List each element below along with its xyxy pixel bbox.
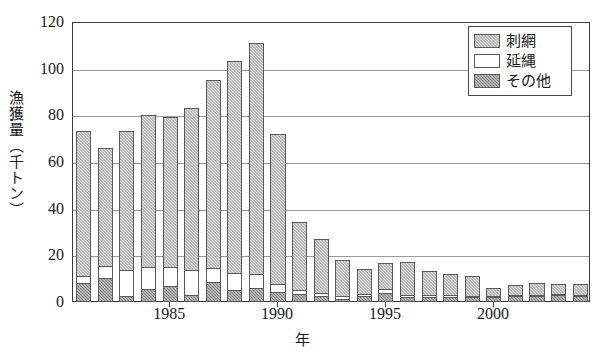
bar-1991: [292, 219, 307, 301]
bar-segment-other: [573, 296, 588, 302]
legend-swatch-longline: [474, 54, 500, 68]
bar-1993: [335, 257, 350, 301]
legend-label: 延縄: [506, 54, 536, 69]
legend-label: その他: [506, 74, 551, 89]
bar-1994: [357, 266, 372, 301]
bar-segment-gillnet: [378, 263, 393, 290]
bar-segment-other: [98, 278, 113, 303]
bar-segment-other: [249, 288, 264, 302]
bar-segment-gillnet: [98, 148, 113, 267]
y-axis-tick-labels: 020406080100120: [0, 0, 72, 302]
bar-segment-gillnet: [422, 271, 437, 296]
bar-segment-gillnet: [465, 276, 480, 297]
chart-legend: 刺網延縄その他: [468, 26, 572, 96]
x-axis-tick-mark: [169, 302, 170, 307]
bar-1981: [76, 128, 91, 301]
y-axis-tick-label: 60: [6, 154, 64, 170]
bar-segment-other: [119, 296, 134, 302]
legend-item-other: その他: [474, 71, 566, 91]
bar-segment-gillnet: [119, 131, 134, 271]
bar-2002: [529, 280, 544, 301]
bar-1984: [141, 112, 156, 301]
bar-1997: [422, 268, 437, 301]
bar-segment-other: [292, 294, 307, 302]
x-axis-tick-mark: [493, 302, 494, 307]
bar-segment-gillnet: [249, 43, 264, 275]
bar-segment-gillnet: [76, 131, 91, 277]
y-axis-tick-label: 120: [6, 14, 64, 30]
bar-segment-other: [163, 286, 178, 302]
bar-1999: [465, 273, 480, 301]
bar-segment-other: [443, 297, 458, 302]
bar-segment-other: [508, 296, 523, 302]
x-axis-title: 年: [0, 328, 605, 349]
legend-item-gillnet: 刺網: [474, 31, 566, 51]
bar-segment-other: [422, 297, 437, 302]
bar-segment-gillnet: [314, 239, 329, 294]
x-axis-tick-mark: [385, 302, 386, 307]
bar-segment-other: [357, 296, 372, 302]
x-axis-tick-label: 1990: [261, 306, 293, 322]
y-axis-tick-label: 0: [6, 294, 64, 310]
bar-segment-other: [314, 296, 329, 302]
bar-segment-gillnet: [443, 274, 458, 296]
legend-label: 刺網: [506, 34, 536, 49]
bar-1990: [270, 131, 285, 301]
bar-segment-other: [184, 295, 199, 302]
fishery-catch-stacked-bar-chart: 漁獲量（千トン） 020406080100120 198519901995200…: [0, 0, 605, 361]
y-axis-tick-label: 80: [6, 107, 64, 123]
bar-2001: [508, 282, 523, 301]
bar-1986: [184, 105, 199, 301]
x-axis-tick-mark: [277, 302, 278, 307]
bar-segment-gillnet: [270, 134, 285, 286]
bar-1998: [443, 271, 458, 301]
bar-1983: [119, 128, 134, 301]
legend-swatch-other: [474, 74, 500, 88]
bar-segment-other: [335, 299, 350, 303]
x-axis-tick-label: 2000: [477, 306, 509, 322]
bar-segment-other: [270, 292, 285, 303]
bar-segment-other: [400, 297, 415, 302]
bar-segment-longline: [184, 270, 199, 296]
bar-2000: [486, 286, 501, 301]
bar-1996: [400, 259, 415, 301]
bar-segment-other: [465, 297, 480, 302]
bar-segment-longline: [119, 270, 134, 297]
bar-segment-longline: [249, 274, 264, 289]
bar-segment-other: [141, 289, 156, 302]
bar-1982: [98, 145, 113, 301]
bar-segment-gillnet: [292, 222, 307, 291]
bar-1995: [378, 260, 393, 301]
legend-item-longline: 延縄: [474, 51, 566, 71]
y-axis-tick-label: 100: [6, 61, 64, 77]
bar-segment-gillnet: [141, 115, 156, 268]
bar-segment-other: [529, 296, 544, 302]
bar-segment-gillnet: [206, 80, 221, 269]
bar-1985: [163, 114, 178, 301]
bar-segment-gillnet: [357, 269, 372, 295]
bar-segment-longline: [141, 267, 156, 290]
y-axis-tick-label: 20: [6, 247, 64, 263]
bar-segment-longline: [163, 267, 178, 287]
bar-1987: [206, 77, 221, 301]
bar-segment-other: [76, 283, 91, 302]
bar-segment-gillnet: [335, 260, 350, 297]
bar-segment-other: [206, 282, 221, 302]
bar-1992: [314, 236, 329, 301]
bar-segment-longline: [227, 273, 242, 292]
bar-segment-gillnet: [163, 117, 178, 268]
bar-segment-gillnet: [227, 61, 242, 273]
bar-2004: [573, 281, 588, 301]
bar-1989: [249, 40, 264, 301]
bar-segment-gillnet: [400, 262, 415, 296]
bar-1988: [227, 58, 242, 301]
bar-2003: [551, 281, 566, 301]
legend-swatch-gillnet: [474, 34, 500, 48]
bar-segment-other: [378, 293, 393, 302]
bar-segment-longline: [206, 268, 221, 283]
bar-segment-gillnet: [184, 108, 199, 271]
x-axis-tick-label: 1995: [369, 306, 401, 322]
y-axis-tick-label: 40: [6, 201, 64, 217]
x-axis-tick-label: 1985: [153, 306, 185, 322]
bar-segment-other: [227, 290, 242, 302]
